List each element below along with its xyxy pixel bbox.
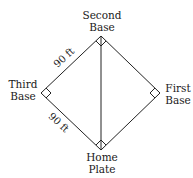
third-base-label-line1: Third <box>7 78 39 90</box>
third-base-label: Third Base <box>7 78 39 102</box>
first-base-label-line2: Base <box>162 94 193 106</box>
second-base-label-line2: Base <box>80 21 124 33</box>
second-base-label-line1: Second <box>80 9 124 21</box>
right-angle-marker-first <box>150 88 155 98</box>
right-angle-marker-third <box>46 88 51 98</box>
edge-second-to-third <box>41 36 101 93</box>
home-plate-label-line1: Home <box>82 151 122 163</box>
home-plate-label-line2: Plate <box>82 163 122 175</box>
first-base-label-line1: First <box>162 82 193 94</box>
edge-home-to-first <box>101 93 160 150</box>
second-base-label: Second Base <box>80 9 124 33</box>
third-base-label-line2: Base <box>7 90 39 102</box>
edge-first-to-second <box>101 36 160 93</box>
home-plate-label: Home Plate <box>82 151 122 175</box>
first-base-label: First Base <box>162 82 193 106</box>
baseball-diamond-diagram: Second Base Third Base First Base Home P… <box>0 0 193 178</box>
